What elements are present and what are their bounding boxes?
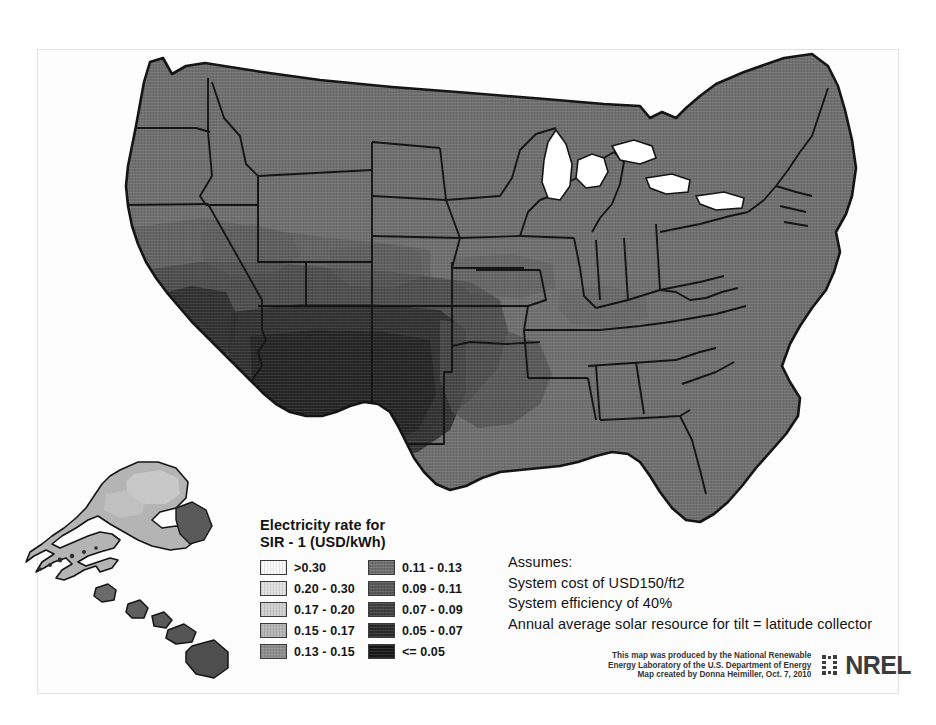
- map-figure: Electricity rate for SIR - 1 (USD/kWh) >…: [0, 0, 936, 725]
- legend-item: 0.11 - 0.13: [368, 559, 463, 576]
- legend-swatch-017-020: [260, 602, 287, 617]
- legend-swatch-005-007: [368, 623, 395, 638]
- legend-label: 0.13 - 0.15: [294, 645, 355, 659]
- legend-column-high: 0.11 - 0.13 0.09 - 0.11 0.07 - 0.09 0.05…: [368, 559, 463, 660]
- legend-title-line-2: SIR - 1 (USD/kWh): [260, 534, 475, 551]
- assumptions-block: Assumes: System cost of USD150/ft2 Syste…: [508, 552, 872, 634]
- nrel-wordmark: NREL: [845, 653, 911, 678]
- nrel-logo: NREL: [822, 653, 911, 678]
- legend-item: 0.15 - 0.17: [260, 622, 355, 639]
- credit-line-1: This map was produced by the National Re…: [608, 651, 811, 661]
- legend-label: 0.20 - 0.30: [294, 582, 355, 596]
- credit-block: This map was produced by the National Re…: [608, 651, 911, 680]
- legend-label: <= 0.05: [402, 645, 445, 659]
- legend-swatch-007-009: [368, 602, 395, 617]
- legend-item: 0.17 - 0.20: [260, 601, 355, 618]
- legend-label: >0.30: [294, 561, 326, 575]
- legend-swatch-009-011: [368, 581, 395, 596]
- legend-item: 0.09 - 0.11: [368, 580, 463, 597]
- legend-swatch-020-030: [260, 581, 287, 596]
- legend-label: 0.05 - 0.07: [402, 624, 463, 638]
- legend-label: 0.15 - 0.17: [294, 624, 355, 638]
- credit-line-2: Energy Laboratory of the U.S. Department…: [608, 661, 811, 671]
- legend-item: <= 0.05: [368, 643, 463, 660]
- legend-column-low: >0.30 0.20 - 0.30 0.17 - 0.20 0.15 - 0.1…: [260, 559, 355, 660]
- map-legend: Electricity rate for SIR - 1 (USD/kWh) >…: [260, 517, 475, 660]
- hawaii-inset: [94, 584, 228, 678]
- legend-swatch-011-013: [368, 560, 395, 575]
- legend-item: 0.20 - 0.30: [260, 580, 355, 597]
- credit-text: This map was produced by the National Re…: [608, 651, 811, 680]
- nrel-dot-grid-icon: [822, 655, 842, 676]
- legend-swatch-015-017: [260, 623, 287, 638]
- legend-label: 0.17 - 0.20: [294, 603, 355, 617]
- assumptions-heading: Assumes:: [508, 552, 872, 573]
- legend-item: 0.07 - 0.09: [368, 601, 463, 618]
- legend-swatch-gt-030: [260, 560, 287, 575]
- legend-item: 0.05 - 0.07: [368, 622, 463, 639]
- legend-item: >0.30: [260, 559, 355, 576]
- legend-label: 0.11 - 0.13: [402, 561, 462, 575]
- legend-label: 0.07 - 0.09: [402, 603, 463, 617]
- assumption-line-3: Annual average solar resource for tilt =…: [508, 614, 872, 635]
- assumption-line-2: System efficiency of 40%: [508, 593, 872, 614]
- credit-line-3: Map created by Donna Heimiller, Oct. 7, …: [608, 670, 811, 680]
- legend-item: 0.13 - 0.15: [260, 643, 355, 660]
- assumption-line-1: System cost of USD150/ft2: [508, 573, 872, 594]
- alaska-inset: [26, 462, 212, 580]
- legend-title-line-1: Electricity rate for: [260, 517, 475, 534]
- legend-swatch-lte-005: [368, 644, 395, 659]
- legend-label: 0.09 - 0.11: [402, 582, 462, 596]
- legend-swatch-013-015: [260, 644, 287, 659]
